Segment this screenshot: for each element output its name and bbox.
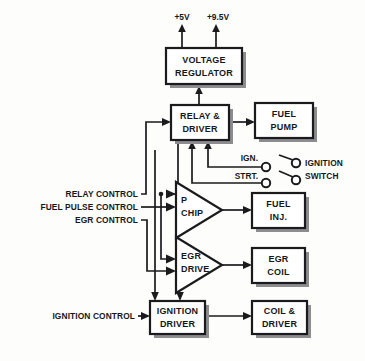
- ignition-driver-label-1: IGNITION: [157, 306, 199, 316]
- fuel-inj-label-1: FUEL: [266, 199, 291, 209]
- rail-label-5v: +5V: [174, 12, 190, 22]
- voltage-regulator-label-1: VOLTAGE: [182, 55, 226, 65]
- block-voltage-regulator[interactable]: VOLTAGE REGULATOR: [166, 48, 246, 88]
- amplifier-p-chip[interactable]: P CHIP: [176, 182, 222, 238]
- egr-drive-label-2: DRIVE: [181, 264, 210, 274]
- rail-label-9v5: +9.5V: [207, 12, 230, 22]
- label-terminal-ign: IGN.: [241, 153, 258, 163]
- block-fuel-inj[interactable]: FUEL INJ.: [252, 193, 309, 232]
- switch-contact-ign-left[interactable]: [262, 163, 270, 171]
- switch-blade-strt[interactable]: [279, 171, 293, 177]
- switch-contact-strt-right[interactable]: [292, 176, 300, 184]
- egr-coil-label-2: COIL: [267, 267, 290, 277]
- label-relay-control: RELAY CONTROL: [66, 189, 139, 199]
- arrow-relay-control: [162, 118, 171, 126]
- block-egr-coil[interactable]: EGR COIL: [252, 248, 309, 287]
- ignition-switch[interactable]: [262, 155, 300, 187]
- fuel-inj-label-2: INJ.: [270, 212, 287, 222]
- fuel-pump-label-2: PUMP: [271, 122, 298, 132]
- label-ignition-switch-1: IGNITION: [305, 158, 343, 168]
- block-relay-driver[interactable]: RELAY & DRIVER: [171, 105, 233, 144]
- amplifier-egr-drive[interactable]: EGR DRIVE: [176, 237, 222, 293]
- label-ignition-control: IGNITION CONTROL: [52, 311, 135, 321]
- p-chip-label-2: CHIP: [181, 208, 203, 218]
- egr-drive-label-1: EGR: [181, 251, 201, 261]
- arrow-rail-5v: [178, 24, 186, 32]
- wire-relay-control: [141, 122, 164, 194]
- egr-coil-label-1: EGR: [268, 254, 288, 264]
- block-fuel-pump[interactable]: FUEL PUMP: [255, 103, 317, 142]
- ignition-driver-label-2: DRIVER: [160, 319, 196, 329]
- label-terminal-strt: STRT.: [235, 171, 258, 181]
- arrow-rail-9v5: [212, 24, 220, 32]
- arrow-bus-to-ignition-driver: [151, 292, 159, 301]
- fuel-pump-label-1: FUEL: [272, 109, 297, 119]
- arrow-egr-control: [166, 267, 176, 276]
- block-diagram-canvas: VOLTAGE REGULATOR RELAY & DRIVER FUEL PU…: [0, 0, 365, 361]
- diagram-svg: VOLTAGE REGULATOR RELAY & DRIVER FUEL PU…: [0, 0, 365, 361]
- arrow-egr-to-egr-coil: [243, 261, 252, 269]
- voltage-regulator-box[interactable]: [166, 48, 242, 84]
- coil-driver-label-1: COIL &: [264, 306, 296, 316]
- voltage-regulator-label-2: REGULATOR: [175, 68, 233, 78]
- arrow-relay-to-fuel-pump: [246, 118, 255, 126]
- switch-contact-ign-right[interactable]: [292, 159, 300, 167]
- arrow-ignition-control: [141, 312, 150, 320]
- label-fuel-pulse-control: FUEL PULSE CONTROL: [41, 202, 139, 212]
- arrow-relay-feed-egr: [166, 255, 176, 264]
- switch-blade-ign[interactable]: [279, 155, 293, 160]
- relay-driver-label-2: DRIVER: [182, 124, 218, 134]
- switch-contact-strt-left[interactable]: [262, 179, 270, 187]
- label-ignition-switch-2: SWITCH: [305, 171, 339, 181]
- junction-relay-bus: [159, 192, 164, 197]
- block-ignition-driver[interactable]: IGNITION DRIVER: [150, 301, 209, 338]
- arrow-relay-feed-pchip: [166, 190, 176, 199]
- arrow-ignition-driver-to-coil: [243, 312, 252, 320]
- arrow-fuel-pulse-to-pchip: [166, 203, 176, 212]
- coil-driver-label-2: DRIVER: [262, 319, 298, 329]
- label-egr-control: EGR CONTROL: [75, 215, 138, 225]
- p-chip-label-1: P: [181, 195, 187, 205]
- arrow-pchip-to-fuel-inj: [243, 206, 252, 214]
- block-coil-driver[interactable]: COIL & DRIVER: [252, 301, 311, 338]
- relay-driver-label-1: RELAY &: [180, 111, 220, 121]
